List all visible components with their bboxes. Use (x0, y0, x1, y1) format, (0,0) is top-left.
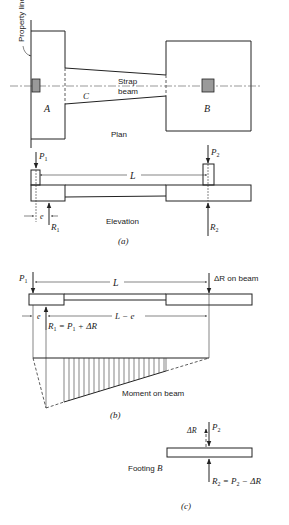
moment-label: Moment on beam (122, 389, 185, 398)
p1-beam-label: P1 (18, 273, 28, 284)
column-b-elevation (203, 164, 214, 185)
strap-beam-bottom-edge (65, 96, 166, 104)
beam-analysis: P1 L ΔR on beam R1 = P1 + ΔR e L − e (18, 272, 259, 420)
span-label: L (129, 170, 136, 181)
caption-a: (a) (118, 236, 129, 246)
p2-footing-label: P2 (211, 422, 221, 433)
moment-bottom-dashed (46, 402, 64, 408)
strap-label-line2: beam (118, 87, 138, 96)
column-b (202, 79, 214, 92)
beam-span-label: L (112, 277, 119, 288)
l-minus-e-label: L − e (114, 311, 134, 321)
plan-view-label: Plan (111, 130, 127, 139)
column-a-elevation (31, 170, 40, 185)
r2-label: R2 (209, 222, 219, 233)
moment-right-dashed (166, 358, 209, 371)
beam-left-footing (29, 294, 64, 305)
delta-r-footing-label: ΔR (186, 426, 197, 435)
footing-b-freebody: P2 ΔR R2 = P2 − ΔR Footing B (c) (128, 422, 261, 511)
strap-beam-top-edge (65, 68, 166, 75)
column-a (32, 79, 40, 92)
property-line-label: Property line (17, 0, 26, 42)
r1-label: R1 (50, 222, 60, 233)
r2-equation: R2 = P2 − ΔR (211, 476, 261, 487)
delta-r-beam-label: ΔR on beam (214, 274, 259, 283)
caption-c: (c) (181, 501, 191, 511)
footing-a-label: A (43, 103, 51, 114)
moment-left-dashed (33, 358, 46, 408)
p1-label: P1 (38, 151, 48, 162)
elevation-view: P1 P2 L R1 R2 e Elevation (a) (24, 145, 251, 246)
footing-b-elevation (166, 185, 251, 201)
elevation-view-label: Elevation (106, 217, 139, 226)
footing-a-outline-top (31, 31, 65, 68)
footing-b-section (167, 448, 252, 457)
property-line-leader (23, 46, 31, 56)
footing-b-label: Footing B (128, 463, 163, 473)
strap-section-label: C (83, 91, 90, 101)
strap-beam-elevation-bottom (65, 196, 166, 197)
r1-equation: R1 = P1 + ΔR (47, 321, 97, 332)
strap-label-line1: Strap (118, 77, 138, 86)
beam-eccentricity-label: e (37, 312, 41, 321)
p2-label: P2 (210, 147, 220, 158)
eccentricity-label: e (40, 212, 44, 221)
plan-view: Property line A B C Strap beam Plan (10, 0, 262, 148)
footing-b-label: B (204, 103, 210, 114)
strap-footing-figure: Property line A B C Strap beam Plan (0, 0, 289, 525)
caption-b: (b) (110, 410, 121, 420)
